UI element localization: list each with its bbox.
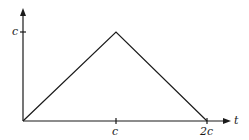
triangle-function-plot: c c 2c t xyxy=(0,0,249,140)
x-tick-label-2c: 2c xyxy=(200,126,213,137)
y-axis-arrow-icon xyxy=(20,8,26,16)
plot-canvas xyxy=(0,0,249,140)
triangle-curve xyxy=(23,32,207,121)
x-axis-arrow-icon xyxy=(223,118,231,124)
x-tick-label-c: c xyxy=(112,126,118,137)
y-tick-label-c: c xyxy=(12,26,18,37)
x-axis-label: t xyxy=(234,115,238,126)
